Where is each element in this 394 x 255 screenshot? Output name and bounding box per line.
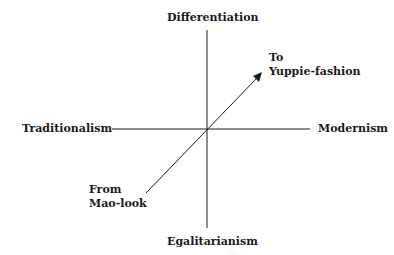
axis-label-top: Differentiation bbox=[167, 11, 259, 25]
axis-label-left: Traditionalism bbox=[22, 122, 112, 136]
arrow-start-label-line2: Mao-look bbox=[89, 197, 147, 211]
arrow-start-label: From Mao-look bbox=[89, 183, 147, 211]
trajectory-arrow-line bbox=[146, 79, 256, 193]
arrow-start-label-line1: From bbox=[89, 183, 147, 197]
axis-label-right: Modernism bbox=[318, 122, 388, 136]
arrow-end-label-line1: To bbox=[269, 51, 361, 65]
arrow-end-label: To Yuppie-fashion bbox=[269, 51, 361, 79]
arrow-end-label-line2: Yuppie-fashion bbox=[269, 65, 361, 79]
axis-label-bottom: Egalitarianism bbox=[167, 235, 258, 249]
